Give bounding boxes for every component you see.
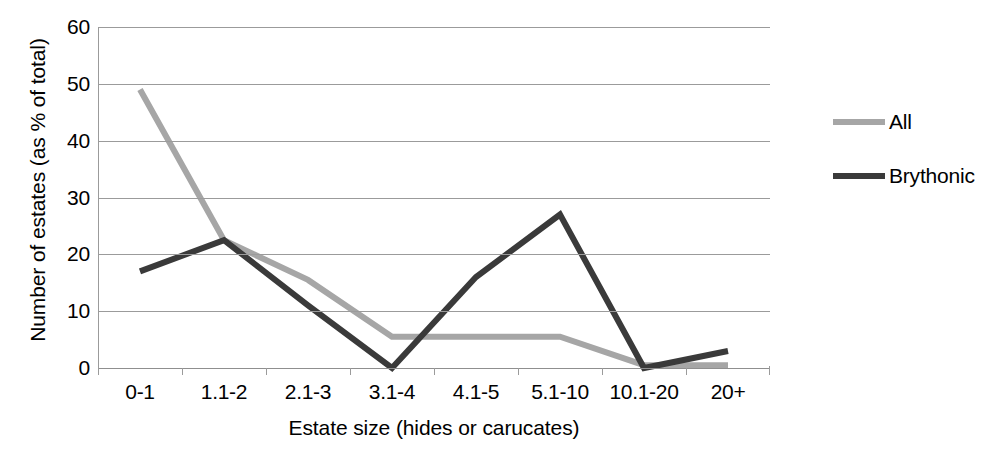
x-axis-tick-label: 10.1-20 <box>609 380 678 404</box>
gridline <box>98 254 770 255</box>
x-axis-tick-label: 0-1 <box>125 380 154 404</box>
y-axis-tick-label: 20 <box>34 243 90 264</box>
plot-area <box>98 27 770 368</box>
x-axis-tick-label: 1.1-2 <box>201 380 247 404</box>
x-axis-tick-mark <box>98 368 99 375</box>
y-axis-tick-label: 50 <box>34 73 90 94</box>
x-axis-tick-label: 5.1-10 <box>531 380 589 404</box>
line-chart: Number of estates (as % of total) 010203… <box>0 0 990 456</box>
legend-label: Brythonic <box>889 164 975 188</box>
gridline <box>98 27 770 28</box>
y-axis-tick-label: 30 <box>34 187 90 208</box>
legend-entry[interactable]: All <box>833 110 912 134</box>
gridline <box>98 141 770 142</box>
x-axis-tick-mark <box>350 368 351 375</box>
y-axis-tick-labels: 0102030405060 <box>34 0 90 456</box>
x-axis-tick-mark <box>266 368 267 375</box>
x-axis-tick-label: 2.1-3 <box>285 380 331 404</box>
y-axis-tick-label: 60 <box>34 16 90 37</box>
gridline <box>98 311 770 312</box>
x-axis-tick-label: 4.1-5 <box>453 380 499 404</box>
legend-swatch-icon <box>833 119 885 125</box>
x-axis-tick-mark <box>518 368 519 375</box>
y-axis-tick-label: 10 <box>34 300 90 321</box>
y-axis-tick-label: 40 <box>34 130 90 151</box>
gridline <box>98 198 770 199</box>
x-axis-tick-label: 20+ <box>711 380 746 404</box>
legend-entry[interactable]: Brythonic <box>833 164 975 188</box>
x-axis-tick-labels: 0-11.1-22.1-33.1-44.1-55.1-1010.1-2020+ <box>98 380 770 410</box>
x-axis-title: Estate size (hides or carucates) <box>98 415 770 440</box>
x-axis-tick-mark <box>686 368 687 375</box>
x-axis-tick-label: 3.1-4 <box>369 380 415 404</box>
x-axis-tick-mark <box>182 368 183 375</box>
legend-label: All <box>889 110 912 134</box>
x-axis-tick-mark <box>434 368 435 375</box>
gridline <box>98 84 770 85</box>
series-line <box>140 215 728 368</box>
x-axis-tick-mark <box>769 366 770 375</box>
x-axis-tick-mark <box>602 368 603 375</box>
y-axis-tick-label: 0 <box>34 357 90 378</box>
legend-swatch-icon <box>833 173 885 179</box>
